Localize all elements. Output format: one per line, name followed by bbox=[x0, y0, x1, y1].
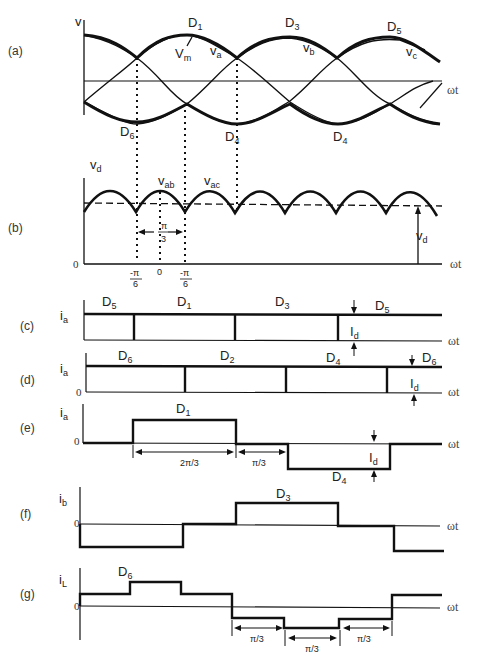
label-Vd: vd bbox=[416, 228, 428, 245]
svg-text:ωt: ωt bbox=[447, 519, 459, 533]
svg-text:D5: D5 bbox=[375, 298, 389, 315]
svg-text:D6: D6 bbox=[118, 564, 132, 581]
panel-c: (c) ia ωt D5 D1 D3 D5 Id bbox=[20, 294, 460, 356]
svg-text:D4: D4 bbox=[332, 469, 346, 486]
label-D4-b: D4 bbox=[333, 129, 347, 146]
panel-e: (e) ia 0 ωt D1 D4 2π/3 π/3 Id bbox=[20, 401, 460, 486]
rectifier-waveform-figure: (a) v ωt D1 D3 D5 Vm va vb vc D6 D4 D4 (… bbox=[0, 0, 477, 662]
x-axis-label-wt-b: ωt bbox=[450, 257, 462, 271]
svg-text:π/3: π/3 bbox=[250, 634, 264, 644]
va-curve bbox=[84, 35, 433, 124]
svg-text:ωt: ωt bbox=[448, 385, 460, 399]
label-vd: vd bbox=[90, 157, 102, 174]
panel-label-d: (d) bbox=[20, 373, 35, 387]
svg-text:π/3: π/3 bbox=[252, 458, 266, 468]
panel-f: (f) ib 0 ωt D3 bbox=[20, 486, 459, 551]
svg-text:iL: iL bbox=[59, 572, 67, 589]
svg-text:D5: D5 bbox=[102, 294, 116, 311]
label-D6: D6 bbox=[120, 124, 134, 141]
svg-text:ia: ia bbox=[60, 361, 68, 378]
svg-text:0: 0 bbox=[76, 386, 82, 398]
svg-text:D3: D3 bbox=[276, 486, 290, 503]
ib-waveform-f bbox=[80, 503, 444, 551]
figure-caption-faded bbox=[120, 648, 360, 660]
label-D3: D3 bbox=[285, 15, 299, 32]
vd-arrowhead bbox=[415, 206, 421, 214]
vm-arrow bbox=[187, 37, 192, 46]
svg-text:D3: D3 bbox=[275, 294, 289, 311]
interval-arrow-right bbox=[176, 229, 183, 235]
label-Vm: Vm bbox=[175, 46, 191, 63]
svg-text:Id: Id bbox=[410, 376, 419, 393]
tick-neg-pi-6-a: -π bbox=[130, 268, 139, 278]
panel-d: (d) ia 0 ωt D6 D2 D4 D6 Id bbox=[20, 348, 460, 406]
svg-text:ωt: ωt bbox=[448, 334, 460, 348]
svg-text:ib: ib bbox=[59, 491, 67, 508]
panel-label-b: (b) bbox=[8, 221, 23, 235]
panel-b: (b) vd 0 ωt vab vac vd π 3 -π 6 0 -π 6 bbox=[8, 157, 462, 289]
iL-waveform-g bbox=[80, 582, 442, 628]
svg-text:D1: D1 bbox=[177, 294, 191, 311]
panel-label-a: (a) bbox=[8, 44, 23, 58]
phase-tail bbox=[420, 83, 442, 108]
tick-neg-pi-6-b: -π bbox=[180, 268, 189, 278]
tick-zero: 0 bbox=[157, 267, 162, 277]
interval-arrow-left bbox=[138, 229, 145, 235]
label-D5: D5 bbox=[387, 19, 401, 36]
svg-text:D2: D2 bbox=[220, 348, 234, 365]
svg-text:6: 6 bbox=[133, 279, 138, 289]
svg-text:π/3: π/3 bbox=[357, 634, 371, 644]
origin-b: 0 bbox=[73, 258, 79, 270]
svg-text:ia: ia bbox=[60, 405, 68, 422]
svg-text:D4: D4 bbox=[326, 350, 340, 367]
svg-text:D1: D1 bbox=[176, 401, 190, 418]
svg-text:D6: D6 bbox=[118, 348, 132, 365]
label-vab: vab bbox=[158, 173, 175, 190]
label-Id-c: Id bbox=[350, 324, 359, 341]
panel-label-c: (c) bbox=[20, 319, 34, 333]
interval-pi: π bbox=[161, 221, 167, 231]
svg-text:6: 6 bbox=[183, 279, 188, 289]
x-axis-label-wt: ωt bbox=[447, 83, 459, 97]
svg-text:D6: D6 bbox=[422, 350, 436, 367]
panel-label-f: (f) bbox=[20, 507, 31, 521]
interval-3: 3 bbox=[161, 234, 166, 244]
panel-label-g: (g) bbox=[20, 587, 35, 601]
panel-label-e: (e) bbox=[20, 421, 35, 435]
svg-text:ωt: ωt bbox=[448, 437, 460, 451]
svg-text:2π/3: 2π/3 bbox=[180, 458, 199, 468]
svg-text:Id: Id bbox=[369, 450, 378, 467]
y-axis-label-v: v bbox=[75, 14, 82, 29]
svg-text:0: 0 bbox=[74, 435, 80, 447]
label-vac: vac bbox=[204, 173, 221, 190]
panel-g: (g) iL 0 ωt D6 π/3 π/3 π/3 bbox=[20, 564, 459, 654]
svg-text:ωt: ωt bbox=[447, 600, 459, 614]
label-ia-c: ia bbox=[60, 308, 68, 325]
label-D1: D1 bbox=[188, 15, 202, 32]
panel-a: (a) v ωt D1 D3 D5 Vm va vb vc D6 D4 D4 bbox=[8, 14, 459, 146]
